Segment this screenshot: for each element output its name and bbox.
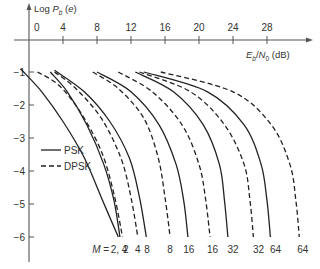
psk-curve-m32 (135, 72, 228, 237)
m-value-label: 32 (227, 244, 239, 255)
y-tick-label: −4 (14, 166, 26, 177)
m-prefix-label: M = (92, 244, 109, 255)
m-value-label: 2 (123, 244, 129, 255)
x-tick-label: 12 (125, 22, 137, 33)
m-value-label: 4 (135, 244, 141, 255)
x-tick-label: 16 (159, 22, 171, 33)
ber-chart: 0481216202428−1−2−3−4−5−6Log Pb (e)Eb/N0… (0, 0, 320, 269)
m-value-label: 8 (144, 244, 150, 255)
curve-m-labels: M =2, 42488161632326464 (92, 244, 309, 255)
dpsk-curve-m16 (118, 72, 210, 237)
m-value-label: 32 (253, 244, 265, 255)
dpsk-curve-m64 (161, 72, 299, 237)
psk-curve-m4 (50, 72, 120, 237)
m-value-label: 64 (297, 244, 309, 255)
y-axis-label: Log Pb (e) (34, 3, 77, 16)
chart-canvas: 0481216202428−1−2−3−4−5−6Log Pb (e)Eb/N0… (0, 0, 320, 269)
m-value-label: 64 (270, 244, 282, 255)
m-value-label: 8 (167, 244, 173, 255)
m-value-label: 16 (207, 244, 219, 255)
x-tick-label: 4 (60, 22, 66, 33)
y-tick-label: −6 (14, 232, 26, 243)
y-axis-arrow-icon (27, 3, 32, 10)
m-value-label: 16 (183, 244, 195, 255)
y-tick-label: −5 (14, 199, 26, 210)
y-tick-label: −2 (14, 100, 26, 111)
legend-dpsk-label: DPSK (64, 161, 92, 172)
x-tick-label: 28 (261, 22, 273, 33)
legend-psk-label: PSK (64, 145, 84, 156)
x-axis-arrow-icon (306, 38, 313, 43)
dpsk-curve-m8 (93, 72, 170, 237)
x-tick-label: 24 (227, 22, 239, 33)
y-tick-label: −3 (14, 133, 26, 144)
dpsk-curve-m32 (140, 72, 254, 237)
x-tick-label: 20 (193, 22, 205, 33)
x-axis-label: Eb/N0 (dB) (246, 49, 290, 62)
x-tick-label: 0 (34, 22, 40, 33)
x-tick-label: 8 (94, 22, 100, 33)
curves (21, 69, 300, 237)
